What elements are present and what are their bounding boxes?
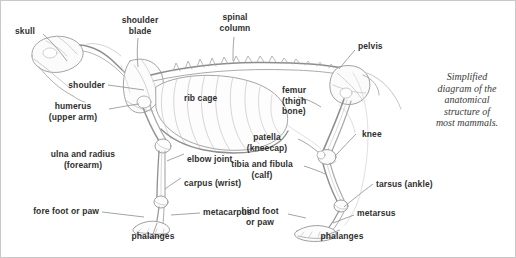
tarsus-joint: [334, 200, 348, 212]
label-fore-foot: fore foot or paw: [15, 206, 99, 217]
figure-caption: Simplified diagram of the anatomical str…: [421, 71, 513, 129]
metacarpus-bone: [156, 207, 164, 226]
label-phalanges-front: phalanges: [115, 231, 191, 242]
label-pelvis: pelvis: [358, 41, 383, 52]
label-femur: femur (thigh bone): [282, 85, 326, 117]
label-patella: patella (kneecap): [237, 132, 297, 153]
knee-joint: [317, 150, 336, 165]
scapula-bone: [123, 59, 163, 113]
spinal-column-bone: [151, 56, 355, 81]
label-shoulder-blade: shoulder blade: [109, 15, 171, 36]
label-tarsus: tarsus (ankle): [376, 179, 433, 190]
label-tibia-fibula: tibia and fibula (calf): [219, 159, 305, 180]
label-metarsus: metarsus: [357, 208, 396, 219]
label-spinal-column: spinal column: [206, 12, 264, 33]
metarsus-bone: [327, 211, 344, 231]
label-hind-foot: hind foot or paw: [234, 206, 286, 227]
femur-bone: [323, 99, 355, 153]
anatomy-diagram-figure: skull shoulder blade spinal column pelvi…: [0, 0, 516, 258]
label-shoulder: shoulder: [37, 80, 105, 91]
label-humerus: humerus (upper arm): [39, 101, 107, 122]
elbow-joint: [155, 139, 171, 153]
tibia-fibula-bone: [323, 163, 344, 201]
label-rib-cage: rib cage: [184, 93, 217, 104]
label-phalanges-back: phalanges: [304, 231, 380, 242]
label-skull: skull: [15, 26, 35, 37]
label-carpus: carpus (wrist): [184, 178, 241, 189]
label-knee: knee: [362, 129, 382, 140]
skull-bone: [32, 36, 85, 102]
pelvis-bone: [330, 66, 401, 110]
carpus-joint: [154, 196, 168, 208]
ulna-radius-bone: [157, 151, 165, 197]
label-ulna-radius: ulna and radius (forearm): [40, 149, 126, 170]
humerus-bone: [137, 96, 166, 141]
